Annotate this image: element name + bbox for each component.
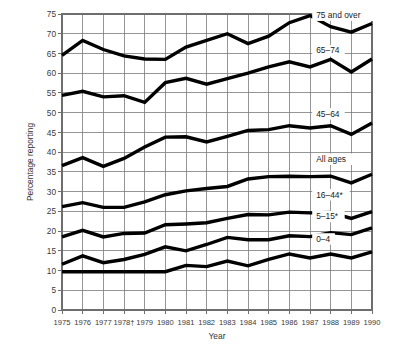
series-label-5-15-: 5–15* <box>316 211 339 221</box>
series-label-75-and-over: 75 and over <box>316 10 360 20</box>
x-axis-tick-label: 1975 <box>54 318 71 327</box>
series-label-16-44-: 16–44* <box>316 190 343 200</box>
y-axis-tick-label: 25 <box>47 206 57 216</box>
y-axis-tick-label: 35 <box>47 167 57 177</box>
series-label-65-74: 65–74 <box>316 45 340 55</box>
series-label-45-64: 45–64 <box>316 109 340 119</box>
y-axis-tick-label: 70 <box>47 29 57 39</box>
x-axis-tick-label: 1983 <box>219 318 236 327</box>
y-axis-tick-label: 10 <box>47 266 57 276</box>
y-axis-tick-label: 50 <box>47 108 57 118</box>
x-axis-tick-label: 1979 <box>136 318 153 327</box>
x-axis-tick-label: 1978† <box>113 318 134 327</box>
y-axis-tick-label: 20 <box>47 226 57 236</box>
y-axis-tick-label: 60 <box>47 68 57 78</box>
y-axis-tick-label: 75 <box>47 9 57 19</box>
x-axis-tick-label: 1987 <box>302 318 319 327</box>
x-axis-tick-label: 1985 <box>260 318 277 327</box>
y-axis-tick-label: 15 <box>47 246 57 256</box>
x-axis-tick-label: 1982 <box>198 318 215 327</box>
y-axis-tick-label: 5 <box>51 285 56 295</box>
y-axis-tick-label: 30 <box>47 187 57 197</box>
x-axis-tick-label: 1988 <box>322 318 339 327</box>
y-axis-tick-label: 65 <box>47 49 57 59</box>
series-label-all-ages: All ages <box>316 154 346 164</box>
x-axis-tick-label: 1986 <box>281 318 298 327</box>
x-axis-tick-label: 1980 <box>157 318 174 327</box>
x-axis-tick-label: 1977 <box>95 318 112 327</box>
y-axis-tick-label: 40 <box>47 147 57 157</box>
x-axis-tick-label: 1989 <box>343 318 360 327</box>
series-label-0-4: 0–4 <box>316 234 330 244</box>
y-axis-tick-label: 45 <box>47 128 57 138</box>
y-axis-tick-label: 55 <box>47 88 57 98</box>
line-chart: 0510152025303540455055606570751975197619… <box>0 0 397 364</box>
chart-canvas: 0510152025303540455055606570751975197619… <box>0 0 397 364</box>
x-axis-tick-label: 1981 <box>178 318 195 327</box>
x-axis-tick-label: 1990 <box>364 318 381 327</box>
x-axis-tick-label: 1976 <box>74 318 91 327</box>
y-axis-tick-label: 0 <box>51 305 56 315</box>
series-line-65-74 <box>62 59 372 102</box>
y-axis-title: Percentage reporting <box>25 123 35 202</box>
x-axis-tick-label: 1984 <box>240 318 257 327</box>
x-axis-title: Year <box>209 331 226 341</box>
